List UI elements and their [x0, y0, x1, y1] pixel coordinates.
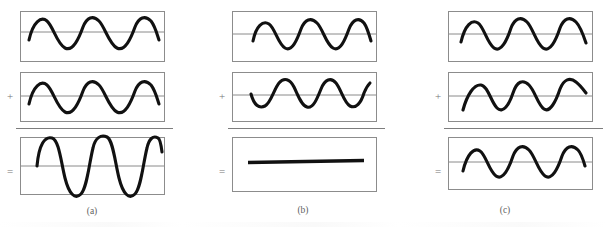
panel-a-input-wave-2-svg: [21, 73, 164, 121]
panel-c-input-wave-1-box: [448, 11, 593, 62]
panel-a-result-wave-svg: [21, 138, 164, 194]
panel-c-result-wave-box: [448, 137, 593, 190]
panel-a-input-wave-1-box: [20, 11, 165, 62]
panel-c: + = (c): [404, 0, 606, 227]
scan-edge-artifact: [0, 222, 606, 227]
panel-c-divider: [444, 128, 603, 129]
panel-a-divider: [16, 128, 173, 129]
panel-a-equals-symbol: =: [7, 166, 13, 177]
wave-interference-figure: + = (a) +: [0, 0, 606, 227]
panel-b: + = (b): [202, 0, 404, 227]
panel-b-result-wave-svg: [233, 138, 376, 191]
panel-c-result-wave-svg: [449, 138, 592, 189]
panel-b-result-wave-box: [232, 137, 377, 192]
panel-b-input-wave-1-box: [232, 11, 377, 62]
panel-c-input-wave-2-box: [448, 72, 593, 122]
panel-c-caption: (c): [470, 206, 540, 216]
panel-c-plus-symbol: +: [435, 91, 441, 102]
panel-b-input-wave-2-svg: [233, 73, 376, 121]
panel-a: + = (a): [0, 0, 202, 227]
panel-b-plus-symbol: +: [219, 91, 225, 102]
panel-c-equals-symbol: =: [435, 166, 441, 177]
panel-b-input-wave-1-svg: [233, 12, 376, 61]
panel-a-plus-symbol: +: [7, 91, 13, 102]
panel-a-caption: (a): [57, 207, 127, 217]
wave-path-a1: [29, 18, 159, 49]
panel-b-caption: (b): [268, 206, 338, 216]
panel-c-input-wave-1-svg: [449, 12, 592, 61]
wave-path-a2: [29, 82, 159, 113]
panel-a-input-wave-1-svg: [21, 12, 164, 61]
panel-c-input-wave-2-svg: [449, 73, 592, 121]
panel-b-input-wave-2-box: [232, 72, 377, 122]
panel-b-equals-symbol: =: [219, 166, 225, 177]
wave-path-c2: [463, 79, 586, 110]
wave-path-b2: [251, 80, 370, 108]
panel-a-input-wave-2-box: [20, 72, 165, 122]
panel-a-result-wave-box: [20, 137, 165, 195]
wave-path-b-result-flat: [248, 161, 364, 163]
panel-b-divider: [228, 128, 385, 129]
